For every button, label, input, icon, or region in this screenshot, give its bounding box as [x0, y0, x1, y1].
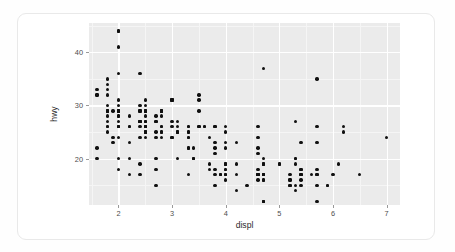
data-point: [213, 141, 216, 144]
y-tick-mark: [86, 52, 89, 53]
data-point: [144, 125, 147, 128]
x-tick-label: 4: [224, 209, 228, 218]
data-point: [106, 104, 109, 107]
gridline-minor-vertical: [253, 23, 254, 205]
data-point: [224, 178, 227, 181]
data-point: [187, 136, 190, 139]
data-point: [262, 178, 265, 181]
screenshot-root: 234567 203040 displ hwy: [0, 0, 455, 252]
data-point: [294, 184, 297, 187]
data-point: [144, 98, 147, 101]
data-point: [95, 93, 98, 96]
data-point: [170, 120, 173, 123]
data-point: [138, 109, 141, 112]
gridline-major-horizontal: [89, 52, 400, 53]
data-point: [117, 157, 120, 160]
data-point: [294, 189, 297, 192]
data-point: [154, 184, 157, 187]
data-point: [160, 109, 163, 112]
gridline-minor-horizontal: [89, 79, 400, 80]
data-point: [213, 146, 216, 149]
data-point: [315, 168, 318, 171]
data-point: [111, 136, 114, 139]
data-point: [117, 104, 120, 107]
data-point: [262, 67, 265, 70]
data-point: [294, 162, 297, 165]
data-point: [337, 162, 340, 165]
data-point: [197, 125, 200, 128]
data-point: [170, 98, 173, 101]
data-point: [154, 168, 157, 171]
data-point: [256, 136, 259, 139]
data-point: [117, 125, 120, 128]
x-tick-label: 6: [331, 209, 335, 218]
data-point: [117, 114, 120, 117]
data-point: [106, 109, 109, 112]
data-point: [138, 136, 141, 139]
data-point: [117, 168, 120, 171]
data-point: [160, 125, 163, 128]
data-point: [219, 173, 222, 176]
data-point: [315, 125, 318, 128]
data-point: [197, 98, 200, 101]
data-point: [170, 136, 173, 139]
plot-card: 234567 203040 displ hwy: [17, 13, 435, 240]
data-point: [117, 136, 120, 139]
data-point: [256, 173, 259, 176]
data-point: [342, 130, 345, 133]
data-point: [235, 173, 238, 176]
gridline-major-vertical: [279, 23, 280, 205]
x-tick-label: 7: [385, 209, 389, 218]
data-point: [208, 168, 211, 171]
data-point: [160, 114, 163, 117]
data-point: [256, 178, 259, 181]
data-point: [331, 173, 334, 176]
data-point: [187, 173, 190, 176]
data-point: [358, 173, 361, 176]
data-point: [144, 130, 147, 133]
gridline-major-horizontal: [89, 105, 400, 106]
x-tick-mark: [333, 205, 334, 208]
gridline-major-vertical: [387, 23, 388, 205]
y-tick-label: 30: [67, 101, 83, 110]
data-point: [144, 114, 147, 117]
data-point: [224, 162, 227, 165]
gridline-minor-horizontal: [89, 132, 400, 133]
data-point: [299, 184, 302, 187]
data-point: [106, 88, 109, 91]
data-point: [385, 136, 388, 139]
data-point: [138, 173, 141, 176]
data-point: [154, 120, 157, 123]
data-point: [95, 157, 98, 160]
data-point: [262, 173, 265, 176]
x-tick-mark: [387, 205, 388, 208]
data-point: [154, 157, 157, 160]
data-point: [117, 29, 120, 32]
data-point: [154, 136, 157, 139]
data-point: [262, 157, 265, 160]
data-point: [310, 173, 313, 176]
data-point: [315, 141, 318, 144]
data-point: [106, 83, 109, 86]
gridline-minor-vertical: [92, 23, 93, 205]
data-point: [235, 189, 238, 192]
data-point: [288, 173, 291, 176]
gridline-major-horizontal: [89, 159, 400, 160]
data-point: [176, 130, 179, 133]
data-point: [138, 125, 141, 128]
data-point: [299, 178, 302, 181]
data-point: [213, 184, 216, 187]
data-point: [160, 136, 163, 139]
x-tick-label: 3: [170, 209, 174, 218]
data-point: [170, 125, 173, 128]
data-point: [138, 162, 141, 165]
data-point: [160, 130, 163, 133]
data-point: [128, 114, 131, 117]
data-point: [262, 200, 265, 203]
data-point: [342, 125, 345, 128]
gridline-minor-vertical: [306, 23, 307, 205]
x-tick-mark: [226, 205, 227, 208]
data-point: [278, 162, 281, 165]
data-point: [192, 146, 195, 149]
x-tick-mark: [172, 205, 173, 208]
